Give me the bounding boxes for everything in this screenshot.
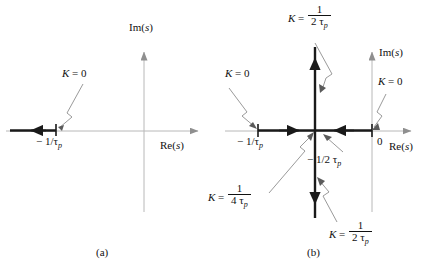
leader-top-arrowhead-b	[319, 84, 326, 93]
k-fraction-denominator: 2 τp	[308, 15, 331, 30]
real-axis-label-a: Re(s)	[160, 140, 184, 152]
tick-label-origin-b: 0	[377, 136, 383, 148]
tick-subscript: p	[259, 141, 263, 150]
panel-b: K = 12 τp K = 0 K = 0 K = 14 τp K = 12 τ…	[211, 0, 422, 272]
k-equals: =	[336, 228, 348, 240]
imaginary-axis-label-b: Im(s)	[379, 47, 403, 59]
k-zero-value: = 0	[69, 67, 86, 79]
imaginary-axis-label-a: Im(s)	[129, 22, 153, 34]
tick-subscript: p	[58, 141, 62, 150]
tick-text: − 1/2 τ	[307, 153, 337, 165]
tick-label-minus-half-tau-p-b: − 1/2 τp	[307, 154, 341, 168]
tick-text: − 1/τ	[36, 135, 58, 147]
imaginary-axis-text: Im(s)	[379, 46, 403, 58]
k-fraction-denominator: 4 τp	[228, 194, 251, 209]
real-axis-text: Re(s)	[389, 140, 413, 152]
k-fraction-numerator: 1	[228, 183, 251, 194]
k-label-breakaway-b: K = 14 τp	[208, 185, 252, 211]
k-fraction: 12 τp	[349, 220, 372, 246]
k-zero-value: = 0	[232, 67, 249, 79]
k-zero-label-left-b: K = 0	[225, 68, 250, 80]
imaginary-axis-text: Im(s)	[129, 21, 153, 33]
panel-a-graphics	[0, 0, 211, 272]
k-fraction-denominator: 2 τp	[349, 231, 372, 246]
leader-breakaway-b	[269, 135, 312, 193]
caption-b: (b)	[307, 246, 320, 258]
k-label-top-branch-b: K = 12 τp	[288, 6, 332, 32]
k-fraction-numerator: 1	[349, 220, 372, 231]
k-zero-label-a: K = 0	[62, 68, 87, 80]
k-equals: =	[295, 12, 307, 24]
leader-bottom-arrowhead-b	[317, 177, 325, 186]
leader-half-tau-tick-arrowhead-b	[323, 134, 332, 141]
root-locus-figure: K = 0 − 1/τp Im(s) Re(s) (a)	[0, 0, 422, 272]
leader-bottom-b	[319, 180, 337, 222]
leader-k-zero-left-b	[229, 88, 255, 127]
real-axis-text: Re(s)	[160, 139, 184, 151]
tick-label-minus-one-over-tau-p-a: − 1/τp	[36, 136, 62, 150]
leader-k-zero-right-b	[374, 94, 386, 127]
tick-subscript: p	[337, 159, 341, 168]
leader-top-b	[315, 43, 332, 90]
panel-a: K = 0 − 1/τp Im(s) Re(s) (a)	[0, 0, 211, 272]
k-equals: =	[215, 191, 227, 203]
k-zero-value: = 0	[385, 75, 402, 87]
tick-text: − 1/τ	[237, 135, 259, 147]
k-fraction: 14 τp	[228, 183, 251, 209]
real-axis-label-b: Re(s)	[389, 141, 413, 153]
k-zero-label-right-b: K = 0	[378, 76, 403, 88]
tick-label-minus-one-over-tau-p-b: − 1/τp	[237, 136, 263, 150]
k-fraction-numerator: 1	[308, 4, 331, 15]
k-label-bottom-branch-b: K = 12 τp	[329, 222, 373, 248]
caption-a: (a)	[96, 246, 108, 258]
k-fraction: 12 τp	[308, 4, 331, 30]
leader-line-a	[59, 84, 83, 128]
